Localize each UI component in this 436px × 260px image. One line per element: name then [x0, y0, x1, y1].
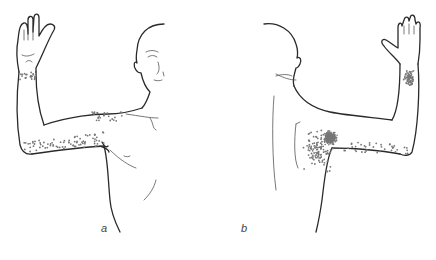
panel-label-b: b: [241, 222, 247, 234]
pain-dots-wrist-b: [403, 70, 415, 86]
forearm-outer: [36, 72, 44, 125]
face-features: [146, 51, 164, 81]
referred-pain-figure: a b: [0, 0, 436, 260]
forearm-inner: [17, 72, 32, 154]
panel-a-figure: [17, 14, 164, 232]
finger-lines: [22, 26, 34, 62]
panel-label-a: a: [101, 222, 107, 234]
upper-arm-lower-edge: [32, 146, 104, 154]
pain-dots-shoulder-a: [91, 111, 123, 122]
shoulder-line: [44, 108, 142, 125]
torso-side: [104, 146, 120, 232]
head-outline: [134, 24, 164, 108]
chest-contour: [110, 114, 158, 200]
finger-lines-back: [404, 24, 414, 34]
hand-outline: [17, 14, 55, 72]
hand-outline-back: [382, 15, 420, 64]
pain-dots-scapula-b: [303, 130, 338, 173]
back-contour: [273, 74, 300, 190]
pain-dots-arm-a: [23, 131, 104, 152]
forearm-outer-back: [392, 64, 400, 120]
shoulder-line-back: [294, 86, 392, 120]
panel-b-figure: [264, 15, 420, 232]
pain-dots-wrist-a: [19, 72, 36, 81]
